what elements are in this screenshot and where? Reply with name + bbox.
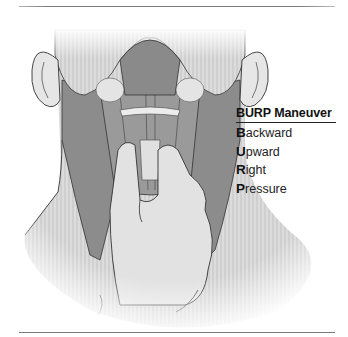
legend-item-backward: Backward xyxy=(236,124,336,143)
legend-item-right: Right xyxy=(236,161,336,180)
legend-initial: B xyxy=(236,125,246,140)
legend-initial: P xyxy=(236,181,245,196)
legend-initial: U xyxy=(236,144,246,159)
bottom-divider xyxy=(19,332,335,333)
legend-item-pressure: Pressure xyxy=(236,180,336,199)
legend-item-upward: Upward xyxy=(236,143,336,162)
legend-title: BURP Maneuver xyxy=(236,106,336,123)
legend-initial: R xyxy=(236,162,246,177)
legend-word: pward xyxy=(246,145,280,159)
burp-legend: BURP Maneuver Backward Upward Right Pres… xyxy=(236,106,336,198)
legend-word: ackward xyxy=(246,126,293,140)
legend-word: ight xyxy=(246,163,266,177)
legend-word: ressure xyxy=(245,182,287,196)
